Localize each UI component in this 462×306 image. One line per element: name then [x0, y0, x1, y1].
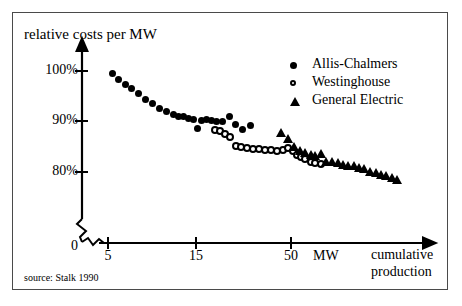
x-tick-label-50: 50: [276, 248, 306, 264]
chart-title: relative costs per MW: [24, 26, 157, 43]
data-point: [128, 85, 135, 92]
data-point: [392, 175, 402, 184]
y-tick-label-0: 0: [32, 238, 78, 254]
y-tick-label-100: 100%: [32, 62, 78, 78]
legend-label-allis-chalmers: Allis-Chalmers: [312, 56, 398, 72]
filled-triangle-marker-icon: [290, 97, 300, 106]
y-tick-label-80: 80%: [32, 163, 78, 179]
data-point: [219, 118, 226, 125]
y-tick-label-90: 90%: [32, 112, 78, 128]
y-axis-break-mark: [77, 219, 86, 242]
data-point: [115, 76, 122, 83]
source-note: source: Stalk 1990: [24, 272, 98, 283]
x-axis-unit-label: MW: [313, 248, 339, 264]
data-point: [239, 126, 246, 133]
chart-figure: relative costs per MW 100% 90% 80% 0 5 1…: [0, 0, 462, 306]
x-tick-label-15: 15: [181, 248, 211, 264]
data-point: [142, 96, 149, 103]
data-point: [109, 70, 116, 77]
legend-label-general-electric: General Electric: [312, 92, 403, 108]
legend-label-westinghouse: Westinghouse: [312, 74, 390, 90]
open-circle-marker-icon: [290, 80, 296, 86]
x-tick-label-5: 5: [93, 248, 123, 264]
x-axis-title: cumulative production: [371, 246, 443, 280]
data-point: [247, 122, 254, 129]
filled-circle-marker-icon: [290, 62, 297, 69]
data-point: [194, 125, 201, 132]
data-point: [135, 90, 142, 97]
